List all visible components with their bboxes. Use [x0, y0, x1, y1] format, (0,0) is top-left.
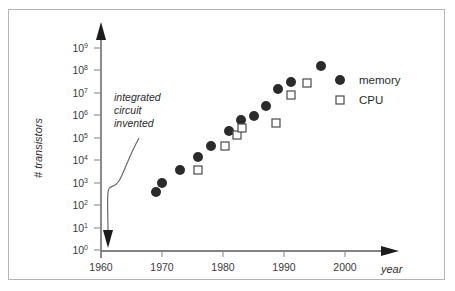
y-tick-base-9: 10	[72, 42, 84, 54]
y-tick-base-1: 10	[72, 222, 84, 234]
data-point-memory	[193, 152, 203, 162]
y-tick-base-3: 10	[72, 177, 84, 189]
y-tick-exp-6: 6	[84, 109, 88, 116]
x-tick-label-2000: 2000	[333, 261, 357, 273]
data-point-cpu	[272, 119, 280, 127]
annotation-line-1: integrated	[114, 91, 162, 103]
chart-page: 100 101 102 103 104 105 106 107	[0, 0, 455, 291]
data-point-memory	[286, 77, 296, 87]
y-tick-exp-0: 0	[84, 244, 88, 251]
svg-text:107: 107	[72, 87, 88, 99]
svg-text:103: 103	[72, 177, 88, 189]
y-tick-exp-9: 9	[84, 42, 88, 49]
y-axis-ticks	[94, 48, 101, 250]
y-tick-exp-5: 5	[84, 132, 88, 139]
annotation-arrowhead	[103, 230, 113, 248]
data-point-memory	[261, 101, 271, 111]
x-tick-label-1990: 1990	[272, 261, 296, 273]
legend-marker-cpu	[336, 96, 344, 104]
annotation-curve	[108, 138, 139, 232]
legend-label-cpu: CPU	[359, 94, 383, 106]
data-point-memory	[206, 141, 216, 151]
svg-text:104: 104	[72, 154, 88, 166]
data-point-cpu	[287, 91, 295, 99]
svg-text:108: 108	[72, 64, 88, 76]
y-tick-base-6: 10	[72, 109, 84, 121]
x-axis-label: year	[380, 263, 404, 275]
transistor-count-chart: 100 101 102 103 104 105 106 107	[0, 0, 455, 291]
x-tick-label-1980: 1980	[211, 261, 235, 273]
svg-text:101: 101	[72, 222, 88, 234]
svg-text:102: 102	[72, 199, 88, 211]
annotation-line-2: circuit	[114, 104, 143, 116]
x-axis-ticks	[101, 251, 345, 257]
data-point-memory	[273, 84, 283, 94]
y-tick-exp-2: 2	[84, 199, 88, 206]
data-point-memory	[175, 165, 185, 175]
y-axis-arrowhead	[96, 22, 106, 40]
y-tick-base-4: 10	[72, 154, 84, 166]
data-point-cpu	[238, 124, 246, 132]
svg-text:106: 106	[72, 109, 88, 121]
y-axis-tick-labels: 100 101 102 103 104 105 106 107	[72, 42, 88, 256]
data-point-memory	[316, 61, 326, 71]
series-cpu-points	[194, 79, 311, 174]
x-tick-label-1960: 1960	[89, 261, 113, 273]
svg-text:100: 100	[72, 244, 88, 256]
y-tick-exp-8: 8	[84, 64, 88, 71]
x-axis-tick-labels: 1960 1970 1980 1990 2000	[89, 261, 357, 273]
y-tick-base-0: 10	[72, 244, 84, 256]
annotation-line-3: invented	[114, 117, 155, 129]
data-point-cpu	[303, 79, 311, 87]
annotation-integrated-circuit: integrated circuit invented	[103, 91, 162, 248]
data-point-cpu	[194, 166, 202, 174]
legend-marker-memory	[335, 75, 345, 85]
chart-legend: memory CPU	[335, 74, 401, 106]
y-tick-base-7: 10	[72, 87, 84, 99]
y-tick-base-5: 10	[72, 132, 84, 144]
y-tick-base-2: 10	[72, 199, 84, 211]
data-point-memory	[249, 111, 259, 121]
y-tick-exp-3: 3	[84, 177, 88, 184]
svg-text:109: 109	[72, 42, 88, 54]
y-tick-base-8: 10	[72, 64, 84, 76]
data-point-cpu	[221, 142, 229, 150]
data-point-memory	[151, 187, 161, 197]
x-axis-arrowhead	[381, 246, 399, 256]
y-axis-label: # transistors	[32, 118, 44, 178]
y-tick-exp-4: 4	[84, 154, 88, 161]
svg-text:105: 105	[72, 132, 88, 144]
x-tick-label-1970: 1970	[150, 261, 174, 273]
y-tick-exp-1: 1	[84, 222, 88, 229]
y-tick-exp-7: 7	[84, 87, 88, 94]
data-point-memory	[157, 178, 167, 188]
legend-label-memory: memory	[359, 74, 401, 86]
